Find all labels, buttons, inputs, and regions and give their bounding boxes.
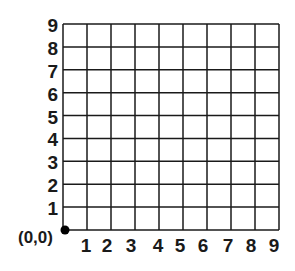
y-axis-label: 9 [36,16,58,35]
x-axis-label: 7 [220,236,236,255]
origin-label: (0,0) [18,229,53,246]
x-axis-label: 5 [172,236,188,255]
y-axis-label: 8 [36,39,58,58]
y-axis-label: 6 [36,85,58,104]
y-axis-label: 1 [36,199,58,218]
x-axis-label: 9 [266,236,282,255]
x-axis-label: 6 [195,236,211,255]
x-axis-label: 3 [123,236,139,255]
origin-point [61,226,70,235]
y-axis-label: 3 [36,153,58,172]
y-axis-label: 5 [36,108,58,127]
y-axis-label: 2 [36,176,58,195]
x-axis-label: 2 [99,236,115,255]
x-axis-label: 4 [150,236,166,255]
y-axis-label: 7 [36,62,58,81]
y-axis-label: 4 [36,130,58,149]
x-axis-label: 1 [78,236,94,255]
x-axis-label: 8 [243,236,259,255]
